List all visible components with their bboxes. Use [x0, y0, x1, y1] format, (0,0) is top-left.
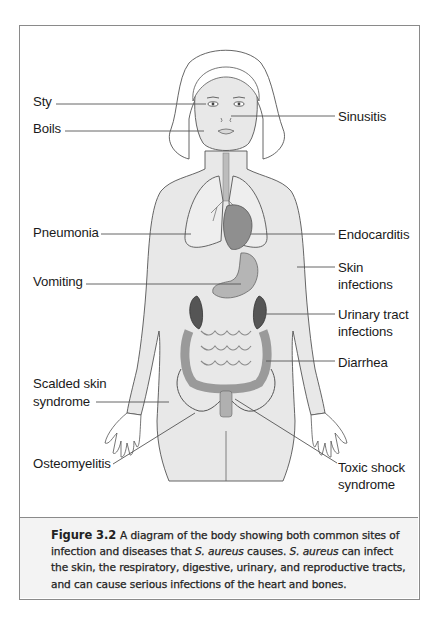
label-diarrhea: Diarrhea [338, 355, 388, 371]
bladder [220, 391, 232, 417]
label-osteomyelitis: Osteomyelitis [33, 456, 111, 472]
species-name: S. aureus [195, 545, 244, 557]
label-pneumonia: Pneumonia [33, 225, 99, 241]
species-name: S. aureus [290, 545, 339, 557]
label-vomiting: Vomiting [33, 274, 83, 290]
label-urinary-tract-2: infections [338, 324, 393, 340]
label-skin-infections-2: infections [338, 277, 393, 293]
label-scalded-skin-2: syndrome [33, 394, 90, 410]
trachea [223, 153, 229, 201]
figure-caption: Figure 3.2A diagram of the body showing … [20, 517, 418, 598]
left-hand [105, 413, 141, 457]
figure-frame: StyBoilsPneumoniaVomitingScalded skinsyn… [19, 25, 420, 600]
face-shape [195, 75, 258, 151]
label-toxic-shock: Toxic shock [338, 460, 405, 476]
label-endocarditis: Endocarditis [338, 227, 409, 243]
label-skin-infections: Skin [338, 260, 363, 276]
body-diagram: StyBoilsPneumoniaVomitingScalded skinsyn… [20, 26, 418, 517]
label-urinary-tract: Urinary tract [338, 307, 409, 323]
label-sty: Sty [33, 94, 52, 110]
label-sinusitis: Sinusitis [338, 109, 386, 125]
caption-fragment: causes. [244, 545, 290, 557]
figure-number: Figure 3.2 [51, 528, 116, 542]
label-toxic-shock-2: syndrome [338, 477, 395, 493]
label-scalded-skin: Scalded skin [33, 376, 107, 392]
label-boils: Boils [33, 121, 61, 137]
